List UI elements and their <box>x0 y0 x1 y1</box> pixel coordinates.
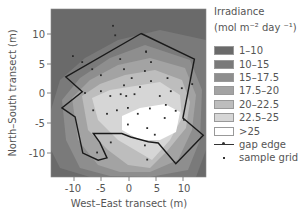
sample-point <box>123 68 125 70</box>
y-tick-label: -10 <box>29 148 45 159</box>
sample-point <box>137 113 139 115</box>
legend-swatch <box>214 100 234 109</box>
y-tick-label: -5 <box>35 118 45 129</box>
sample-point <box>96 152 98 154</box>
sample-point <box>145 51 147 53</box>
legend-item-gap-edge: gap edge <box>214 138 300 151</box>
legend-item: 20–22.5 <box>214 98 300 111</box>
sample-point <box>191 83 193 85</box>
sample-point <box>139 86 141 88</box>
sample-point <box>175 110 177 112</box>
legend-title: Irradiance <box>214 4 300 20</box>
legend-swatch <box>214 73 234 82</box>
sample-point <box>134 93 136 95</box>
sample-point <box>181 87 183 89</box>
x-tick-label: -10 <box>65 183 81 194</box>
sample-point <box>183 119 185 121</box>
sample-point <box>100 90 102 92</box>
y-tick-label: 0 <box>39 88 45 99</box>
legend-swatch <box>214 113 234 122</box>
sample-point <box>150 61 152 63</box>
sample-point <box>131 77 133 79</box>
sample-point <box>167 77 169 79</box>
legend-label: >25 <box>239 126 260 137</box>
x-tick-label: 0 <box>126 183 132 194</box>
legend-item: 17.5–20 <box>214 84 300 97</box>
legend-swatch <box>214 127 234 136</box>
x-tick-label: 10 <box>178 183 191 194</box>
y-axis-title: North–South transect (m) <box>7 29 18 156</box>
sample-point <box>91 68 93 70</box>
legend-item: 1–10 <box>214 44 300 57</box>
plot-area <box>51 9 206 177</box>
sample-point <box>114 34 116 36</box>
sample-point <box>120 93 122 95</box>
x-axis: -10 -5 0 5 10 West–East transect (m) <box>65 177 191 209</box>
sample-point <box>92 109 94 111</box>
sample-point <box>165 104 167 106</box>
legend-label: 1–10 <box>239 45 263 56</box>
sample-point <box>116 109 118 111</box>
sample-point <box>150 80 152 82</box>
legend-label: sample grid <box>239 152 298 163</box>
sample-point <box>72 55 74 57</box>
y-tick-label: 10 <box>32 29 45 40</box>
sample-point <box>146 127 148 129</box>
x-axis-title: West–East transect (m) <box>71 198 187 209</box>
sample-point <box>159 95 161 97</box>
sample-point <box>149 108 151 110</box>
legend-swatch <box>214 46 234 55</box>
sample-point <box>112 25 114 27</box>
sample-point <box>164 117 166 119</box>
sample-point <box>106 113 108 115</box>
sample-point <box>110 142 112 144</box>
legend-item: 22.5–25 <box>214 111 300 124</box>
legend-label: 20–22.5 <box>239 99 279 110</box>
x-tick-label: 5 <box>154 183 160 194</box>
x-tick-label: -5 <box>96 183 106 194</box>
sample-point <box>100 74 102 76</box>
sample-point <box>119 58 121 60</box>
legend-item: 15–17.5 <box>214 71 300 84</box>
sample-point <box>125 95 127 97</box>
sample-point <box>109 95 111 97</box>
sample-point <box>84 92 86 94</box>
legend-units: (mol m⁻² day ⁻¹) <box>214 20 300 36</box>
legend-item: 10–15 <box>214 57 300 70</box>
legend-label: 10–15 <box>239 59 269 70</box>
sample-point <box>123 84 125 86</box>
legend-item: >25 <box>214 124 300 137</box>
legend-label: gap edge <box>239 139 286 150</box>
sample-point <box>170 90 172 92</box>
y-tick-label: 5 <box>39 59 45 70</box>
legend-label: 22.5–25 <box>239 112 279 123</box>
sample-point <box>146 159 148 161</box>
legend-item-sample-grid: sample grid <box>214 151 300 164</box>
sample-point <box>81 61 83 63</box>
sample-point <box>144 145 146 147</box>
sample-point-icon <box>214 153 234 162</box>
sample-point <box>154 134 156 136</box>
legend: Irradiance (mol m⁻² day ⁻¹) 1–10 10–15 1… <box>214 4 300 165</box>
legend-swatch <box>214 86 234 95</box>
legend-items: 1–10 10–15 15–17.5 17.5–20 20–22.5 22.5–… <box>214 44 300 165</box>
legend-label: 17.5–20 <box>239 85 279 96</box>
sample-point <box>127 107 129 109</box>
y-axis: 10 5 0 -5 -10 North–South transect (m) <box>7 29 51 159</box>
sample-point <box>127 124 129 126</box>
gap-edge-line-icon <box>214 140 234 149</box>
sample-point <box>144 70 146 72</box>
legend-swatch <box>214 60 234 69</box>
legend-label: 15–17.5 <box>239 72 279 83</box>
